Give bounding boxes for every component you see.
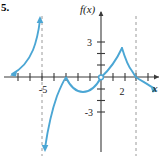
- x-axis-arrowhead: [154, 75, 159, 80]
- x-tick-label-neg5: -5: [39, 84, 47, 95]
- curve-branch-fall-from-cusp: [122, 48, 136, 77]
- graph-plot: f(x) x -5 2 3 -3: [0, 0, 166, 158]
- curve-branch-left-lower: [45, 78, 66, 149]
- y-tick-label-3: 3: [87, 37, 92, 48]
- function-label: f(x): [80, 3, 96, 16]
- curve-branch-valley: [66, 78, 101, 93]
- y-axis-arrowhead: [99, 11, 104, 16]
- figure-container: 5.: [0, 0, 166, 158]
- curve-group: [12, 20, 155, 148]
- y-tick-label-neg3: -3: [85, 107, 93, 118]
- open-point-origin: [99, 75, 104, 80]
- curve-branch-far-left: [12, 20, 40, 74]
- arrowhead-left-asymptote-down: [42, 145, 49, 152]
- x-tick-label-2: 2: [120, 86, 125, 97]
- x-axis-label: x: [152, 82, 158, 94]
- curve-branch-rise-to-cusp: [101, 48, 122, 78]
